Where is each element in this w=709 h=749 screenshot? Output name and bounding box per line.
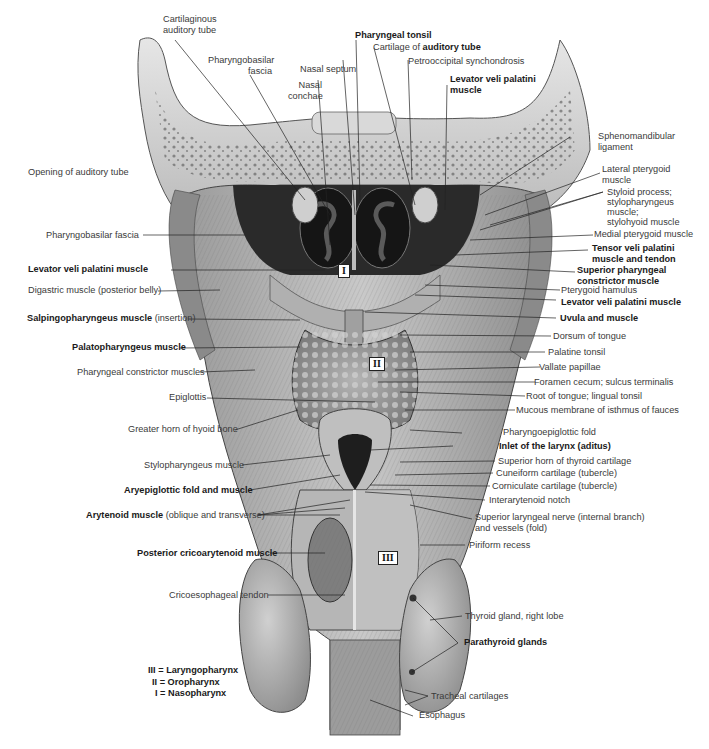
label-interarytenoid-notch: Interarytenoid notch [489,495,570,506]
label-nasal-conchae: Nasalconchae [288,80,322,102]
label-inlet-of-larynx: Inlet of the larynx (aditus) [499,441,611,452]
region-marker-oropharynx: II [369,357,385,371]
label-nasal-septum: Nasal septum [300,64,356,75]
label-corniculate-cartilage: Corniculate cartilage (tubercle) [492,481,617,492]
label-tensor-veli-palatini: Tensor veli palatinimuscle and tendon [592,243,676,265]
region-marker-laryngopharynx: III [378,551,398,565]
label-palatopharyngeus: Palatopharyngeus muscle [72,342,186,353]
legend-item-nasopharynx: I = Nasopharynx [148,688,238,700]
label-levator-veli-palatini-top: Levator veli palatinimuscle [450,74,536,96]
label-sphenomandibular-ligament: Sphenomandibularligament [598,131,675,153]
label-greater-horn-hyoid: Greater horn of hyoid bone [128,424,238,435]
region-legend: III = Laryngopharynx II = Oropharynx I =… [148,665,238,700]
label-stylopharyngeus-muscle: Stylopharyngeus muscle [144,460,244,471]
label-posterior-cricoarytenoid: Posterior cricoarytenoid muscle [137,548,277,559]
label-arytenoid-muscle: Arytenoid muscle (oblique and transverse… [86,510,265,521]
label-parathyroid-glands: Parathyroid glands [464,637,547,648]
label-mucous-membrane-isthmus: Mucous membrane of isthmus of fauces [516,405,679,416]
choanae [233,185,480,275]
label-opening-of-auditory-tube: Opening of auditory tube [28,167,129,178]
label-superior-laryngeal-nerve: Superior laryngeal nerve (internal branc… [475,512,645,534]
label-tracheal-cartilages: Tracheal cartilages [431,691,508,702]
label-pharyngoepiglottic-fold: Pharyngoepiglottic fold [503,427,596,438]
label-foramen-cecum: Foramen cecum; sulcus terminalis [534,377,673,388]
legend-item-oropharynx: II = Oropharynx [148,677,238,689]
label-styloid-process: Styloid process;stylopharyngeus muscle;s… [607,187,680,227]
label-aryepiglottic-fold: Aryepiglottic fold and muscle [124,485,253,496]
label-digastric-muscle: Digastric muscle (posterior belly) [28,285,161,296]
label-epiglottis: Epiglottis [169,392,206,403]
label-cartilaginous-auditory-tube: Cartilaginousauditory tube [163,14,217,36]
label-palatine-tonsil: Palatine tonsil [548,347,605,358]
label-piriform-recess: Piriform recess [469,540,530,551]
label-vallate-papillae: Vallate papillae [539,362,601,373]
label-pharyngeal-constrictor-muscles: Pharyngeal constrictor muscles [77,367,205,378]
label-uvula-and-muscle: Uvula and muscle [560,313,638,324]
label-medial-pterygoid: Medial pterygoid muscle [594,229,693,240]
label-pterygoid-hamulus: Pterygoid hamulus [561,285,637,296]
label-petrooccipital-synchondrosis: Petrooccipital synchondrosis [408,56,524,67]
region-marker-nasopharynx: I [338,264,350,278]
label-salpingopharyngeus: Salpingopharyngeus muscle (insertion) [27,313,196,324]
label-lateral-pterygoid: Lateral pterygoidmuscle [602,164,670,186]
label-esophagus: Esophagus [419,710,465,721]
label-pharyngeal-tonsil: Pharyngeal tonsil [355,30,432,41]
label-cuneiform-cartilage: Cuneiform cartilage (tubercle) [496,468,617,479]
label-levator-veli-palatini-right: Levator veli palatini muscle [561,297,681,308]
label-superior-pharyngeal-constrictor: Superior pharyngealconstrictor muscle [577,265,666,287]
legend-item-laryngopharynx: III = Laryngopharynx [148,665,238,677]
label-cricoesophageal-tendon: Cricoesophageal tendon [169,590,269,601]
label-pharyngobasilar-fascia-left: Pharyngobasilar fascia [46,230,139,241]
label-superior-horn-thyroid: Superior horn of thyroid cartilage [498,456,631,467]
label-cartilage-of-auditory-tube: Cartilage of auditory tube [373,42,481,53]
label-dorsum-of-tongue: Dorsum of tongue [553,331,626,342]
label-thyroid-gland: Thyroid gland, right lobe [465,611,564,622]
label-levator-veli-palatini-left: Levator veli palatini muscle [28,264,148,275]
label-root-of-tongue: Root of tongue; lingual tonsil [526,391,642,402]
label-pharyngobasilar-fascia-top: Pharyngobasilarfascia [208,55,272,77]
